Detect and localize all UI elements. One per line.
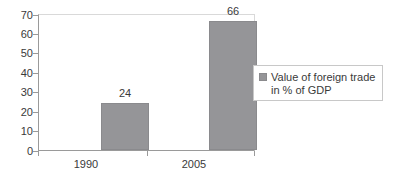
y-tick-label-10: 10 (0, 126, 33, 137)
y-tick-label-30: 30 (0, 87, 33, 98)
bar-value-1990: 24 (101, 88, 149, 99)
y-tick-label-70: 70 (0, 10, 33, 21)
y-tick-label-20: 20 (0, 107, 33, 118)
y-tick-label-0: 0 (0, 146, 33, 157)
bar-group-1990: 24 (101, 15, 149, 150)
legend-entry: Value of foreign trade in % of GDP (259, 71, 378, 97)
bar-chart: 70 60 50 40 30 20 10 0 24 66 1990 (0, 0, 393, 188)
x-tick-label-2005: 2005 (170, 158, 218, 170)
bar-group-2005: 66 (209, 15, 257, 150)
bar-value-2005: 66 (209, 6, 257, 17)
y-axis: 70 60 50 40 30 20 10 0 (0, 0, 33, 188)
y-tick-label-40: 40 (0, 68, 33, 79)
legend-label: Value of foreign trade in % of GDP (271, 71, 375, 97)
x-tick-mark-left (38, 151, 39, 156)
plot-area: 24 66 (38, 14, 255, 151)
y-tick-label-50: 50 (0, 48, 33, 59)
x-tick-label-1990: 1990 (62, 158, 110, 170)
legend: Value of foreign trade in % of GDP (253, 65, 383, 101)
x-tick-mark-right (254, 151, 255, 156)
square-swatch-icon (259, 73, 267, 81)
y-tick-label-60: 60 (0, 29, 33, 40)
bar-2005[interactable] (209, 21, 257, 150)
x-tick-mark-middle (147, 151, 148, 156)
bar-1990[interactable] (101, 103, 149, 150)
